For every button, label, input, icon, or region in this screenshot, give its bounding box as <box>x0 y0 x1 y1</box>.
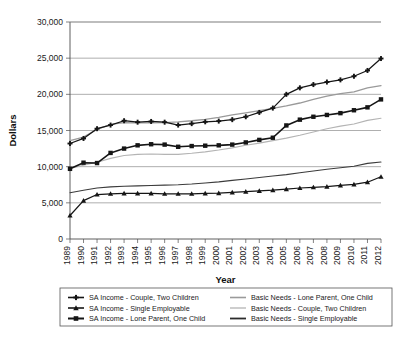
data-marker-plus <box>312 82 314 87</box>
x-tick-label: 1995 <box>143 246 153 265</box>
legend: SA Income - Couple, Two ChildrenSA Incom… <box>60 288 392 326</box>
data-marker-plus <box>191 121 193 126</box>
x-tick-label: 2009 <box>332 246 342 265</box>
legend-item[interactable]: SA Income - Couple, Two Children <box>68 293 199 302</box>
y-axis-title: Dollars <box>7 114 18 146</box>
data-marker-plus <box>75 295 77 300</box>
data-marker-plus <box>123 118 125 123</box>
data-marker-plus <box>137 120 139 125</box>
legend-item[interactable]: SA Income - Single Employable <box>68 304 190 313</box>
series-line <box>70 99 381 168</box>
data-marker-square <box>298 117 302 121</box>
x-tick-label: 1993 <box>116 246 126 265</box>
x-tick-label: 2002 <box>238 246 248 265</box>
data-marker-square <box>68 167 72 171</box>
data-marker-plus <box>150 119 152 124</box>
data-marker-square <box>325 113 329 117</box>
x-tick-label: 1992 <box>103 246 113 265</box>
data-marker-square <box>379 97 383 101</box>
legend-item[interactable]: Basic Needs - Couple, Two Children <box>230 304 366 313</box>
chart-container: 05,00010,00015,00020,00025,00030,0001989… <box>0 0 396 341</box>
data-marker-plus <box>218 119 220 124</box>
x-tick-label: 1996 <box>157 246 167 265</box>
data-marker-square <box>217 143 221 147</box>
data-marker-square <box>311 115 315 119</box>
y-tick-label: 10,000 <box>37 162 63 172</box>
series-4 <box>70 118 381 168</box>
data-marker-square <box>271 136 275 140</box>
data-marker-square <box>257 138 261 142</box>
line-chart: 05,00010,00015,00020,00025,00030,0001989… <box>0 0 396 341</box>
x-axis-title: Year <box>215 274 235 285</box>
x-axis-labels: 1989199019911992199319941995199619971998… <box>62 239 383 265</box>
data-marker-square <box>135 143 139 147</box>
data-marker-square <box>176 145 180 149</box>
data-marker-square <box>108 151 112 155</box>
data-marker-plus <box>177 123 179 128</box>
data-marker-plus <box>380 56 382 61</box>
data-marker-square <box>149 142 153 146</box>
y-tick-label: 20,000 <box>37 89 63 99</box>
data-marker-triangle <box>378 174 383 179</box>
data-marker-plus <box>258 110 260 115</box>
x-tick-label: 2004 <box>265 246 275 265</box>
x-tick-label: 1998 <box>184 246 194 265</box>
x-tick-label: 2001 <box>224 246 234 265</box>
legend-item-label: SA Income - Lone Parent, One Child <box>89 314 205 323</box>
data-marker-plus <box>96 126 98 131</box>
x-tick-label: 2007 <box>305 246 315 265</box>
x-tick-label: 1999 <box>197 246 207 265</box>
data-marker-plus <box>83 136 85 141</box>
y-tick-label: 25,000 <box>37 53 63 63</box>
data-marker-square <box>122 146 126 150</box>
data-marker-square <box>244 140 248 144</box>
x-tick-label: 2006 <box>292 246 302 265</box>
x-tick-label: 2005 <box>278 246 288 265</box>
x-tick-label: 2012 <box>373 246 383 265</box>
x-tick-label: 2010 <box>346 246 356 265</box>
legend-item-label: Basic Needs - Single Employable <box>251 314 357 323</box>
gridlines: 05,00010,00015,00020,00025,00030,000 <box>37 17 381 244</box>
legend-item-label: Basic Needs - Lone Parent, One Child <box>251 293 373 302</box>
data-marker-plus <box>110 123 112 128</box>
x-tick-label: 1994 <box>130 246 140 265</box>
legend-item[interactable]: SA Income - Lone Parent, One Child <box>68 314 205 323</box>
x-tick-label: 2011 <box>359 246 369 265</box>
data-marker-plus <box>326 80 328 85</box>
y-tick-label: 15,000 <box>37 126 63 136</box>
legend-item-label: SA Income - Single Employable <box>89 304 190 313</box>
series-3 <box>70 86 381 141</box>
data-marker-plus <box>285 92 287 97</box>
data-marker-square <box>338 111 342 115</box>
data-marker-plus <box>299 85 301 90</box>
data-marker-square <box>81 160 85 164</box>
data-marker-plus <box>69 141 71 146</box>
data-marker-square <box>162 142 166 146</box>
x-tick-label: 1989 <box>62 246 72 265</box>
x-tick-label: 1990 <box>76 246 86 265</box>
data-marker-square <box>74 316 79 321</box>
data-marker-square <box>352 108 356 112</box>
series-line <box>70 86 381 141</box>
y-tick-label: 5,000 <box>42 198 64 208</box>
x-tick-label: 2008 <box>319 246 329 265</box>
legend-item[interactable]: Basic Needs - Lone Parent, One Child <box>230 293 373 302</box>
y-tick-label: 30,000 <box>37 17 63 27</box>
data-marker-square <box>365 105 369 109</box>
data-marker-plus <box>272 106 274 111</box>
series-2 <box>68 97 383 171</box>
x-tick-label: 1997 <box>170 246 180 265</box>
series-line <box>70 177 381 216</box>
legend-item-label: Basic Needs - Couple, Two Children <box>251 304 366 313</box>
data-marker-plus <box>231 117 233 122</box>
data-marker-square <box>284 123 288 127</box>
legend-item[interactable]: Basic Needs - Single Employable <box>230 314 357 323</box>
data-marker-square <box>95 161 99 165</box>
data-marker-square <box>230 142 234 146</box>
data-marker-plus <box>339 77 341 82</box>
data-marker-square <box>203 143 207 147</box>
data-marker-square <box>189 144 193 148</box>
data-marker-plus <box>367 68 369 73</box>
data-marker-plus <box>164 120 166 125</box>
series-line <box>70 118 381 168</box>
